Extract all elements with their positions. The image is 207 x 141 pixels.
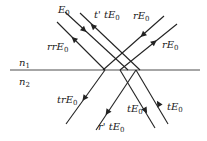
- label-rE-right: rE0: [162, 39, 179, 52]
- label-tE-mid: tE0: [127, 103, 143, 116]
- label-rE-top: rE0: [133, 10, 150, 23]
- label-n1: n1: [19, 57, 30, 70]
- ray-tE-mid: [120, 70, 155, 128]
- label-rrE: rrE0: [47, 41, 68, 54]
- label-tpt: t' tE0: [94, 9, 120, 22]
- label-n2: n2: [19, 76, 30, 89]
- label-trE: trE0: [57, 94, 78, 107]
- label-tE-right: tE0: [167, 101, 183, 114]
- label-rpt: r' tE0: [98, 121, 125, 134]
- stokes-relations-diagram: n1 n2 E0 t' tE0 rE0 rrE0 rE0 trE0 tE0 tE…: [0, 0, 207, 141]
- label-E0: E0: [57, 4, 70, 17]
